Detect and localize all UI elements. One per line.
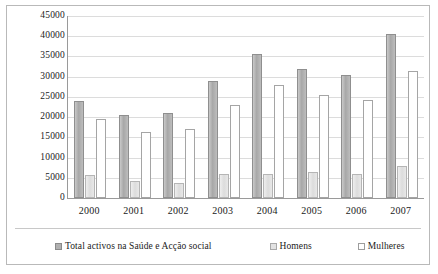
legend-divider (15, 228, 421, 229)
legend-item-homens[interactable]: Homens (270, 241, 312, 251)
y-axis-tick-label: 40000 (11, 31, 65, 41)
legend-swatch-icon-homens (270, 243, 277, 250)
plot-area (67, 16, 424, 199)
bar-mulheres-2001[interactable] (141, 132, 151, 198)
y-axis-tick-label: 20000 (11, 112, 65, 122)
y-axis-tick-label: 5000 (11, 173, 65, 183)
bar-mulheres-2000[interactable] (96, 119, 106, 198)
x-axis-tick-label: 2002 (156, 202, 201, 220)
bar-group-2003 (202, 16, 247, 198)
y-axis-tick-label: 30000 (11, 72, 65, 82)
x-axis: 20002001200220032004200520062007 (67, 202, 423, 220)
bar-mulheres-2004[interactable] (274, 85, 284, 198)
chart-frame: 0500010000150002000025000300003500040000… (6, 5, 430, 265)
bar-mulheres-2003[interactable] (230, 105, 240, 198)
y-axis-tick-label: 15000 (11, 133, 65, 143)
x-axis-tick-label: 2006 (334, 202, 379, 220)
legend-label: Mulheres (368, 241, 405, 251)
legend-swatch-icon-mulheres (358, 243, 365, 250)
bar-homens-2002[interactable] (174, 183, 184, 198)
y-axis-tick-label: 0 (11, 193, 65, 203)
x-axis-tick-label: 2005 (290, 202, 335, 220)
bar-group-2004 (246, 16, 291, 198)
bar-total-2003[interactable] (208, 81, 218, 198)
bar-total-2001[interactable] (119, 115, 129, 198)
bar-total-2000[interactable] (74, 101, 84, 198)
bar-homens-2001[interactable] (130, 181, 140, 198)
x-axis-tick-label: 2004 (245, 202, 290, 220)
bar-homens-2007[interactable] (397, 166, 407, 198)
bar-homens-2004[interactable] (263, 174, 273, 198)
x-axis-tick-label: 2001 (112, 202, 157, 220)
bar-mulheres-2007[interactable] (408, 71, 418, 198)
y-axis-tick-label: 10000 (11, 153, 65, 163)
bar-group-2006 (335, 16, 380, 198)
legend-label: Total activos na Saúde e Acção social (65, 241, 212, 251)
y-axis-tick-label: 45000 (11, 11, 65, 21)
x-axis-tick-label: 2000 (67, 202, 112, 220)
bar-total-2002[interactable] (163, 113, 173, 198)
bar-homens-2005[interactable] (308, 172, 318, 198)
bar-mulheres-2002[interactable] (185, 129, 195, 198)
legend-item-mulheres[interactable]: Mulheres (358, 241, 405, 251)
bar-homens-2003[interactable] (219, 174, 229, 198)
bar-total-2007[interactable] (386, 34, 396, 198)
x-axis-tick-label: 2003 (201, 202, 246, 220)
bar-total-2006[interactable] (341, 75, 351, 198)
chart-plot-wrapper: 0500010000150002000025000300003500040000… (7, 6, 429, 264)
bar-mulheres-2005[interactable] (319, 95, 329, 198)
y-axis: 0500010000150002000025000300003500040000… (11, 16, 65, 198)
chart-legend: Total activos na Saúde e Acção socialHom… (15, 234, 421, 258)
x-axis-tick-label: 2007 (379, 202, 424, 220)
bar-group-2005 (291, 16, 336, 198)
bar-total-2005[interactable] (297, 69, 307, 198)
bar-groups (68, 16, 424, 198)
bar-group-2000 (68, 16, 113, 198)
bar-total-2004[interactable] (252, 54, 262, 198)
legend-item-total[interactable]: Total activos na Saúde e Acção social (55, 241, 212, 251)
bar-group-2002 (157, 16, 202, 198)
legend-swatch-icon-total (55, 243, 62, 250)
legend-label: Homens (280, 241, 312, 251)
y-axis-tick-label: 25000 (11, 92, 65, 102)
bar-homens-2000[interactable] (85, 175, 95, 198)
bar-homens-2006[interactable] (352, 174, 362, 198)
y-axis-tick-label: 35000 (11, 52, 65, 62)
bar-group-2007 (380, 16, 425, 198)
bar-mulheres-2006[interactable] (363, 100, 373, 198)
bar-group-2001 (113, 16, 158, 198)
